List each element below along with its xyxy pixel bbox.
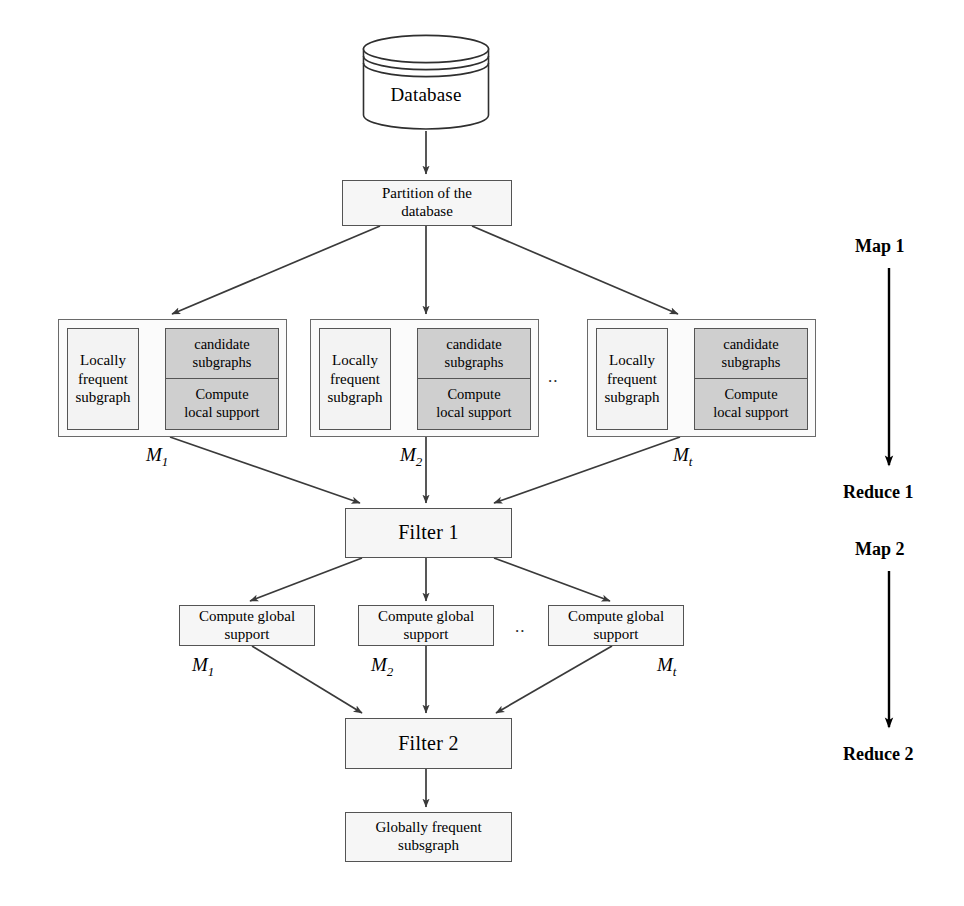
globally-frequent-subgraph-box[interactable]: Globally frequent subsgraph	[345, 812, 512, 862]
compute-global-support-box-m1[interactable]: Compute global support	[179, 605, 315, 646]
partition-line-1: Partition of the	[382, 185, 472, 203]
compute-local-line-1: Compute	[447, 386, 500, 404]
mapper-index: t	[673, 664, 677, 679]
cgs-line-2: support	[594, 626, 639, 644]
filter-2-label: Filter 2	[398, 732, 459, 756]
lfs-line-1: Locally	[609, 351, 655, 370]
mapper-letter: M	[657, 654, 673, 675]
cgs-line-2: support	[404, 626, 449, 644]
mapper-label-mt-row2: Mt	[657, 654, 676, 680]
lfs-line-3: subgraph	[605, 388, 660, 407]
cgs-line-2: support	[225, 626, 270, 644]
mapper-label-mt-row1: Mt	[673, 444, 692, 470]
mapper-label-m2-row2: M2	[371, 654, 393, 680]
phase-label-map-1: Map 1	[855, 236, 905, 257]
mapper-letter: M	[146, 444, 162, 465]
mapper-index: 1	[208, 664, 215, 679]
compute-local-support-cell-mt[interactable]: Compute local support	[695, 379, 807, 429]
candidate-subgraphs-cell-m1[interactable]: candidate subgraphs	[166, 329, 278, 379]
candidate-line-2: subgraphs	[445, 354, 504, 372]
mapper-index: 2	[416, 454, 423, 469]
mapper-group-m2[interactable]: Locally frequent subgraph candidate subg…	[310, 319, 539, 437]
compute-global-support-box-m2[interactable]: Compute global support	[358, 605, 494, 646]
mapper-letter: M	[673, 444, 689, 465]
candidate-compute-stack-m2[interactable]: candidate subgraphs Compute local suppor…	[417, 328, 531, 430]
filter-1-box[interactable]: Filter 1	[345, 508, 512, 558]
database-label: Database	[362, 84, 490, 106]
partition-box[interactable]: Partition of the database	[342, 180, 512, 226]
candidate-subgraphs-cell-m2[interactable]: candidate subgraphs	[418, 329, 530, 379]
compute-local-support-cell-m1[interactable]: Compute local support	[166, 379, 278, 429]
candidate-compute-stack-m1[interactable]: candidate subgraphs Compute local suppor…	[165, 328, 279, 430]
mapper-letter: M	[192, 654, 208, 675]
lfs-line-1: Locally	[80, 351, 126, 370]
mapper-label-m1-row2: M1	[192, 654, 214, 680]
compute-global-support-box-mt[interactable]: Compute global support	[548, 605, 684, 646]
partition-line-2: database	[401, 203, 453, 221]
lfs-line-2: frequent	[78, 370, 128, 389]
locally-frequent-subgraph-box-m2[interactable]: Locally frequent subgraph	[319, 328, 391, 430]
mapper-label-m1-row1: M1	[146, 444, 168, 470]
compute-local-line-1: Compute	[195, 386, 248, 404]
connector-layer	[0, 0, 964, 906]
candidate-subgraphs-cell-mt[interactable]: candidate subgraphs	[695, 329, 807, 379]
ellipsis-map1: ..	[548, 367, 559, 387]
mapper-index: 2	[387, 664, 394, 679]
mapper-group-mt[interactable]: Locally frequent subgraph candidate subg…	[587, 319, 816, 437]
cgs-line-1: Compute global	[199, 608, 295, 626]
mapper-letter: M	[400, 444, 416, 465]
compute-local-line-2: local support	[184, 404, 259, 422]
compute-local-line-1: Compute	[724, 386, 777, 404]
compute-local-support-cell-m2[interactable]: Compute local support	[418, 379, 530, 429]
candidate-line-2: subgraphs	[722, 354, 781, 372]
cgs-line-1: Compute global	[568, 608, 664, 626]
phase-label-map-2: Map 2	[855, 539, 905, 560]
filter-1-label: Filter 1	[398, 521, 459, 545]
phase-label-reduce-2: Reduce 2	[843, 744, 914, 765]
diagram-canvas: Database Partition of the database Local…	[0, 0, 964, 906]
locally-frequent-subgraph-box-mt[interactable]: Locally frequent subgraph	[596, 328, 668, 430]
lfs-line-2: frequent	[607, 370, 657, 389]
lfs-line-2: frequent	[330, 370, 380, 389]
mapper-letter: M	[371, 654, 387, 675]
filter-2-box[interactable]: Filter 2	[345, 718, 512, 769]
candidate-compute-stack-mt[interactable]: candidate subgraphs Compute local suppor…	[694, 328, 808, 430]
lfs-line-3: subgraph	[76, 388, 131, 407]
result-line-1: Globally frequent	[375, 819, 481, 837]
database-cylinder-icon	[362, 34, 490, 130]
candidate-line-1: candidate	[723, 336, 779, 354]
compute-local-line-2: local support	[713, 404, 788, 422]
lfs-line-3: subgraph	[328, 388, 383, 407]
candidate-line-2: subgraphs	[193, 354, 252, 372]
mapper-group-m1[interactable]: Locally frequent subgraph candidate subg…	[58, 319, 287, 437]
result-line-2: subsgraph	[398, 837, 459, 855]
candidate-line-1: candidate	[446, 336, 502, 354]
compute-local-line-2: local support	[436, 404, 511, 422]
cgs-line-1: Compute global	[378, 608, 474, 626]
mapper-label-m2-row1: M2	[400, 444, 422, 470]
locally-frequent-subgraph-box-m1[interactable]: Locally frequent subgraph	[67, 328, 139, 430]
ellipsis-map2: ..	[515, 617, 526, 637]
phase-label-reduce-1: Reduce 1	[843, 482, 914, 503]
candidate-line-1: candidate	[194, 336, 250, 354]
mapper-index: 1	[162, 454, 169, 469]
mapper-index: t	[689, 454, 693, 469]
lfs-line-1: Locally	[332, 351, 378, 370]
